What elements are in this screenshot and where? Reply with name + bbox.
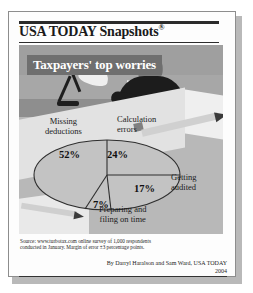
source-note: Source: www.turbotax.com online survey o…	[20, 238, 200, 251]
pie-value-preparing-filing: 7%	[93, 199, 109, 210]
pie-label-calculation-line2: errors	[117, 125, 156, 135]
pie-label-missing-deductions: Missing deductions	[45, 117, 82, 136]
byline: By Darryl Haralson and Sam Ward, USA TOD…	[19, 259, 227, 275]
footer-rule	[19, 276, 227, 277]
infographic-card: USA TODAY Snapshots®	[8, 11, 236, 277]
pencil-tip-icon	[214, 110, 223, 122]
pie-value-calculation-errors: 24%	[107, 149, 128, 160]
masthead-brand: USA TODAY Snapshots	[19, 24, 158, 39]
snapshot-infographic: USA TODAY Snapshots®	[0, 0, 253, 293]
pie-label-missing-line2: deductions	[45, 127, 82, 137]
registered-trademark-icon: ®	[158, 23, 164, 32]
masthead-bottom-rule	[19, 42, 219, 43]
chart-title-banner: Taxpayers' top worries	[27, 55, 162, 75]
pie-label-filing-line2: filing on time	[99, 215, 146, 225]
pie-value-getting-audited: 17%	[134, 183, 155, 194]
pie-value-missing-deductions: 52%	[59, 149, 80, 160]
desk-lamp-base	[57, 101, 79, 106]
byline-year: 2004	[19, 267, 227, 275]
pie-label-getting-audited: Getting audited	[171, 173, 197, 192]
pie-label-calculation-errors: Calculation errors	[117, 115, 156, 134]
foreground-pencil-tip-icon	[73, 211, 84, 220]
byline-credit: By Darryl Haralson and Sam Ward, USA TOD…	[19, 259, 227, 267]
source-line-2: conducted in January. Margin of error ±3…	[20, 244, 200, 250]
pie-label-audited-line2: audited	[171, 183, 197, 193]
illustration-panel: Taxpayers' top worries Missing	[19, 45, 223, 234]
page-title: USA TODAY Snapshots®	[19, 23, 223, 42]
